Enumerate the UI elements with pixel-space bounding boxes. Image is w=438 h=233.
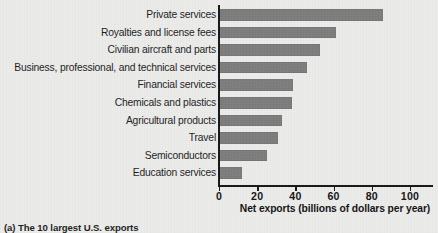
bar-category-label: Financial services (137, 76, 216, 94)
figure-caption: (a) The 10 largest U.S. exports (4, 222, 138, 233)
bar (219, 150, 267, 162)
figure-panel: Private servicesRoyalties and license fe… (0, 0, 438, 233)
bar-track (219, 147, 267, 165)
x-axis-title: Net exports (billions of dollars per yea… (232, 203, 438, 214)
bar-track (219, 94, 292, 112)
x-tick-label: 80 (366, 190, 378, 202)
bar-category-label: Civilian aircraft and parts (108, 41, 216, 59)
x-tick-label: 40 (289, 190, 301, 202)
bar-category-label: Chemicals and plastics (115, 94, 216, 112)
bar-category-label: Business, professional, and technical se… (14, 59, 216, 77)
x-axis-line (218, 185, 433, 187)
bar-track (219, 41, 320, 59)
bar-category-label: Royalties and license fees (101, 24, 216, 42)
bar-category-label: Travel (189, 129, 216, 147)
bar-track (219, 76, 293, 94)
bar-track (219, 129, 278, 147)
bar (219, 62, 307, 74)
bar-track (219, 24, 336, 42)
bar-category-label: Education services (133, 164, 216, 182)
x-tick-label: 60 (328, 190, 340, 202)
bar-track (219, 164, 242, 182)
x-tick-label: 100 (401, 190, 419, 202)
bar-category-label: Agricultural products (126, 112, 216, 130)
bar (219, 97, 292, 109)
bar-category-label: Private services (146, 6, 216, 24)
bar (219, 79, 293, 91)
bar-track (219, 112, 282, 130)
x-tick-label: 20 (251, 190, 263, 202)
bar-track (219, 6, 383, 24)
bar (219, 132, 278, 144)
bar (219, 27, 336, 39)
bar-track (219, 59, 307, 77)
bar (219, 115, 282, 127)
y-axis-line (218, 5, 220, 186)
bar-chart: Private servicesRoyalties and license fe… (0, 0, 438, 233)
bar (219, 44, 320, 56)
bar-category-label: Semiconductors (145, 147, 216, 165)
x-tick-label: 0 (216, 190, 222, 202)
bar (219, 9, 383, 21)
bar (219, 167, 242, 179)
